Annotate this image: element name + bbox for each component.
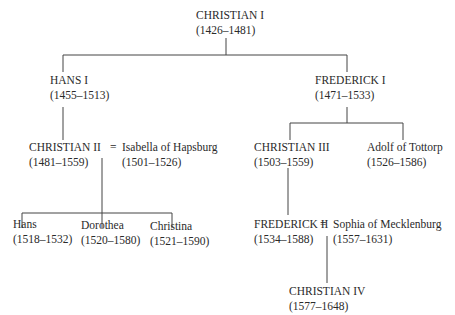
node-hans-i: HANS I (1455–1513) (50, 73, 109, 103)
node-adolf: Adolf of Tottorp (1526–1586) (367, 140, 443, 170)
person-name: CHRISTIAN III (254, 140, 330, 155)
node-christian-iv: CHRISTIAN IV (1577–1648) (289, 284, 365, 314)
person-dates: (1534–1588) (254, 232, 328, 247)
node-christian-i: CHRISTIAN I (1426–1481) (196, 8, 264, 38)
person-name: HANS I (50, 73, 109, 88)
person-dates: (1557–1631) (333, 232, 441, 247)
node-hans: Hans (1518–1532) (13, 217, 72, 247)
person-name: Dorothea (81, 218, 140, 233)
node-isabella: Isabella of Hapsburg (1501–1526) (122, 140, 218, 170)
person-dates: (1455–1513) (50, 88, 109, 103)
person-dates: (1426–1481) (196, 23, 264, 38)
person-name: Isabella of Hapsburg (122, 140, 218, 155)
person-name: CHRISTIAN I (196, 8, 264, 23)
person-name: CHRISTIAN II (29, 140, 101, 155)
person-name: FREDERICK II (254, 217, 328, 232)
node-dorothea: Dorothea (1520–1580) (81, 218, 140, 248)
marriage-symbol: = (320, 217, 327, 232)
person-name: FREDERICK I (315, 73, 386, 88)
person-dates: (1501–1526) (122, 155, 218, 170)
person-dates: (1526–1586) (367, 155, 443, 170)
person-dates: (1503–1559) (254, 155, 330, 170)
person-name: Sophia of Mecklenburg (333, 217, 441, 232)
person-name: Christina (150, 219, 209, 234)
node-frederick-ii: FREDERICK II (1534–1588) (254, 217, 328, 247)
node-christian-iii: CHRISTIAN III (1503–1559) (254, 140, 330, 170)
marriage-symbol: = (110, 140, 117, 155)
person-name: Adolf of Tottorp (367, 140, 443, 155)
node-frederick-i: FREDERICK I (1471–1533) (315, 73, 386, 103)
person-dates: (1481–1559) (29, 155, 101, 170)
node-christian-ii: CHRISTIAN II (1481–1559) (29, 140, 101, 170)
person-dates: (1471–1533) (315, 88, 386, 103)
person-dates: (1520–1580) (81, 233, 140, 248)
person-dates: (1518–1532) (13, 232, 72, 247)
person-dates: (1577–1648) (289, 299, 365, 314)
node-christina: Christina (1521–1590) (150, 219, 209, 249)
person-name: Hans (13, 217, 72, 232)
node-sophia: Sophia of Mecklenburg (1557–1631) (333, 217, 441, 247)
person-name: CHRISTIAN IV (289, 284, 365, 299)
person-dates: (1521–1590) (150, 234, 209, 249)
